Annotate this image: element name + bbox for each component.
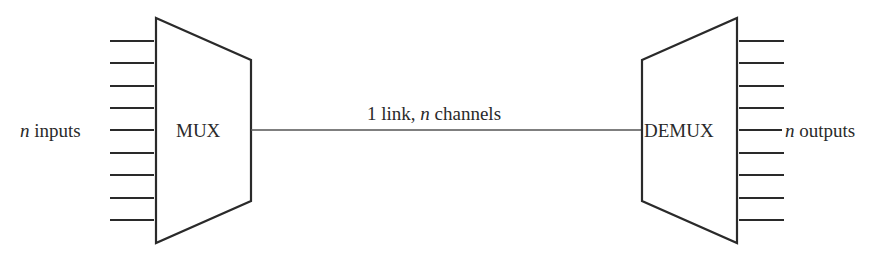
input-lines <box>110 41 154 220</box>
outputs-label: n outputs <box>785 121 855 140</box>
inputs-label-var: n <box>20 120 30 141</box>
outputs-label-text: outputs <box>795 120 856 141</box>
inputs-label-text: inputs <box>30 120 81 141</box>
link-label-prefix: 1 link, <box>367 103 420 124</box>
link-label-suffix: channels <box>430 103 501 124</box>
mux-label: MUX <box>176 121 220 140</box>
link-label: 1 link, n channels <box>367 104 501 123</box>
inputs-label: n inputs <box>20 121 81 140</box>
output-lines <box>739 41 784 220</box>
outputs-label-var: n <box>785 120 795 141</box>
link-label-var: n <box>420 103 430 124</box>
mux-demux-diagram: n inputs MUX 1 link, n channels DEMUX n … <box>0 0 895 264</box>
demux-label: DEMUX <box>644 121 715 140</box>
diagram-shapes <box>0 0 895 264</box>
